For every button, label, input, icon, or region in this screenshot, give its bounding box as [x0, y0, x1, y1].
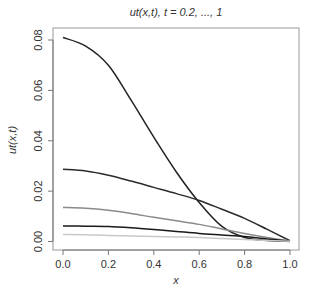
y-tick-label: 0.00	[32, 231, 44, 252]
x-tick-label: 0.4	[146, 258, 161, 270]
x-tick-label: 1.0	[282, 258, 297, 270]
plot-frame	[53, 28, 299, 250]
x-tick-label: 0.6	[192, 258, 207, 270]
x-tick-label: 0.0	[55, 258, 70, 270]
x-tick-label: 0.2	[101, 258, 116, 270]
x-axis: 0.00.20.40.60.81.0	[55, 250, 297, 270]
y-tick-label: 0.02	[32, 180, 44, 201]
series-line-2	[63, 169, 290, 241]
y-tick-label: 0.04	[32, 130, 44, 151]
series-layer	[63, 37, 290, 241]
line-chart: ut(x,t), t = 0.2, ..., 1 0.00.20.40.60.8…	[0, 0, 315, 297]
y-axis: 0.000.020.040.060.08	[32, 29, 53, 252]
y-tick-label: 0.06	[32, 80, 44, 101]
x-tick-label: 0.8	[237, 258, 252, 270]
x-axis-label: x	[172, 274, 179, 286]
y-tick-label: 0.08	[32, 29, 44, 50]
y-axis-label: ut(x,t)	[6, 126, 18, 154]
chart-title: ut(x,t), t = 0.2, ..., 1	[130, 6, 223, 18]
series-line-1	[63, 37, 290, 241]
